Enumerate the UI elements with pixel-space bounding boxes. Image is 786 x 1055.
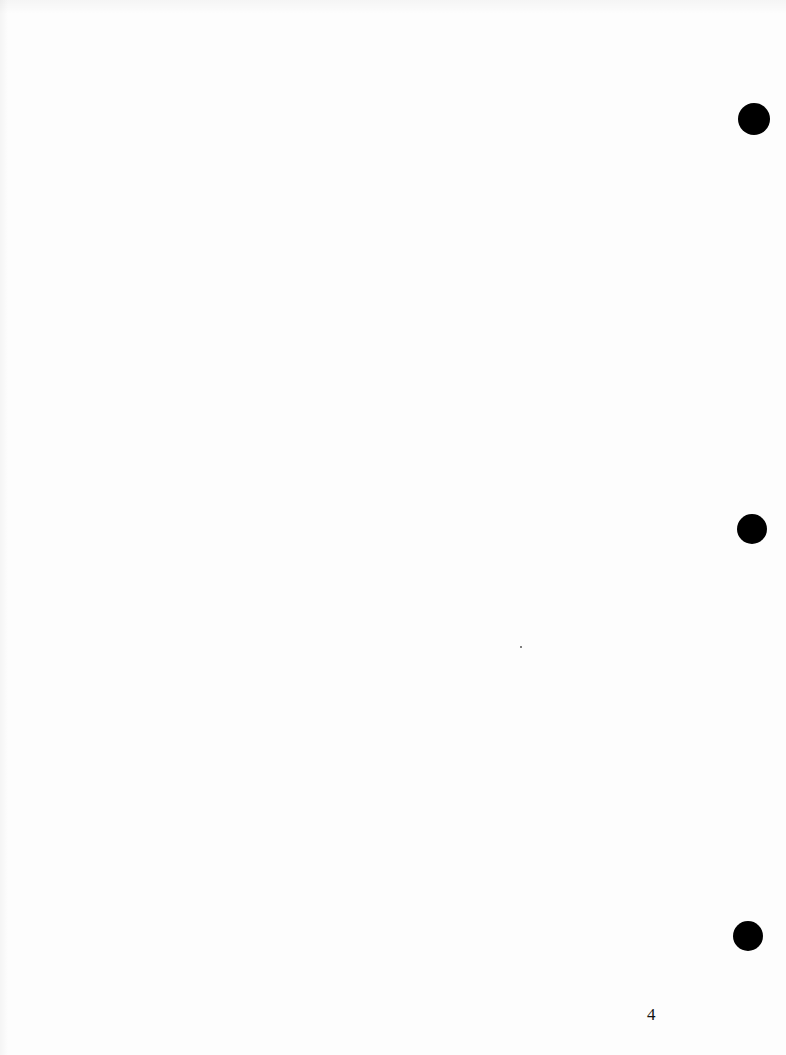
punch-hole-middle (737, 514, 767, 544)
page-number: 4 (647, 1006, 656, 1023)
punch-hole-bottom (733, 921, 763, 951)
document-page: 4 (0, 0, 786, 1055)
punch-hole-top (738, 103, 770, 135)
scan-speck (520, 646, 522, 648)
